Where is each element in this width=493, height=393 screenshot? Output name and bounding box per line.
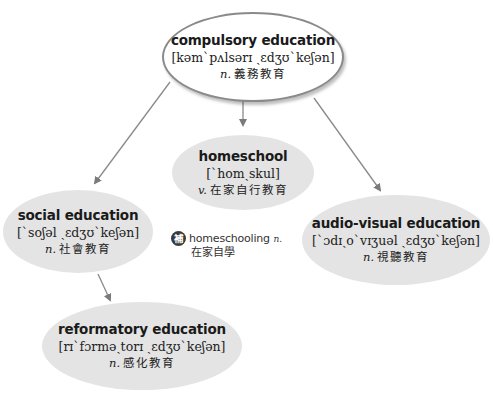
node-audio-visual-education: audio-visual education [`ɔdɪˏo`vɪʒuəl ˏɛ… bbox=[302, 195, 490, 285]
translation: 社會教育 bbox=[59, 242, 111, 256]
concept-map: compulsory education [kəm`pʌlsərɪ ˏɛdʒʊ`… bbox=[0, 0, 493, 393]
term: reformatory education bbox=[58, 321, 226, 338]
part-of-speech: n. bbox=[45, 242, 56, 256]
term: social education bbox=[18, 207, 139, 224]
gloss: n.感化教育 bbox=[109, 355, 175, 371]
node-homeschool: homeschool [`homˏskul] v.在家自行教育 bbox=[172, 135, 314, 210]
term: homeschool bbox=[199, 148, 288, 165]
translation: 在家自行教育 bbox=[210, 183, 288, 197]
pronunciation: [`soʃəl ˏɛdʒʊ`keʃən] bbox=[17, 224, 139, 241]
gloss: n.社會教育 bbox=[45, 241, 111, 257]
gloss: n.義務教育 bbox=[220, 66, 286, 82]
supplement-part-of-speech: n. bbox=[273, 234, 282, 244]
pronunciation: [kəm`pʌlsərɪ ˏɛdʒʊ`keʃən] bbox=[171, 49, 334, 66]
part-of-speech: n. bbox=[220, 67, 231, 81]
term: compulsory education bbox=[171, 32, 335, 49]
supplement-word: homeschooling bbox=[189, 232, 270, 245]
pronunciation: [`homˏskul] bbox=[206, 165, 280, 182]
part-of-speech: n. bbox=[363, 250, 374, 264]
supplement-translation: 在家自學 bbox=[191, 246, 282, 260]
translation: 感化教育 bbox=[123, 356, 175, 370]
arrow-compulsory-to-audiovisual bbox=[314, 98, 380, 190]
pronunciation: [rɪ`fɔrməˏtorɪ ˏɛdʒʊ`keʃən] bbox=[59, 338, 226, 355]
gloss: n.視聽教育 bbox=[363, 249, 429, 265]
term: audio-visual education bbox=[312, 215, 481, 232]
pronunciation: [`ɔdɪˏo`vɪʒuəl ˏɛdʒʊ`keʃən] bbox=[312, 232, 480, 249]
supplement-badge-icon: 補 bbox=[171, 231, 186, 246]
node-social-education: social education [`soʃəl ˏɛdʒʊ`keʃən] n.… bbox=[3, 190, 153, 273]
node-reformatory-education: reformatory education [rɪ`fɔrməˏtorɪ ˏɛd… bbox=[42, 302, 242, 390]
translation: 義務教育 bbox=[234, 67, 286, 81]
part-of-speech: v. bbox=[198, 183, 207, 197]
arrow-social-to-reformatory bbox=[98, 274, 110, 300]
supplement-note: 補homeschooling n. 在家自學 bbox=[171, 231, 282, 260]
gloss: v.在家自行教育 bbox=[198, 182, 288, 198]
arrow-compulsory-to-social bbox=[95, 82, 170, 183]
part-of-speech: n. bbox=[109, 356, 120, 370]
translation: 視聽教育 bbox=[377, 250, 429, 264]
node-compulsory-education: compulsory education [kəm`pʌlsərɪ ˏɛdʒʊ`… bbox=[162, 12, 344, 102]
